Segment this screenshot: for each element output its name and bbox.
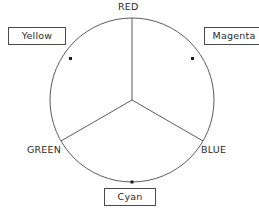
label-yellow: Yellow (22, 31, 52, 41)
label-green: GREEN (27, 145, 61, 155)
label-box-yellow: Yellow (8, 27, 66, 45)
label-cyan: Cyan (118, 192, 143, 202)
label-magenta: Magenta (213, 31, 256, 41)
dot-cyan (131, 181, 134, 184)
dot-yellow (69, 57, 72, 60)
dot-magenta (191, 57, 194, 60)
label-box-magenta: Magenta (204, 27, 259, 45)
spoke-green (61, 100, 132, 141)
label-box-cyan: Cyan (104, 188, 156, 206)
label-red: RED (118, 2, 139, 12)
spoke-blue (132, 100, 203, 141)
color-wheel-figure: RED GREEN BLUE Yellow Magenta Cyan (0, 0, 259, 212)
label-blue: BLUE (201, 145, 226, 155)
